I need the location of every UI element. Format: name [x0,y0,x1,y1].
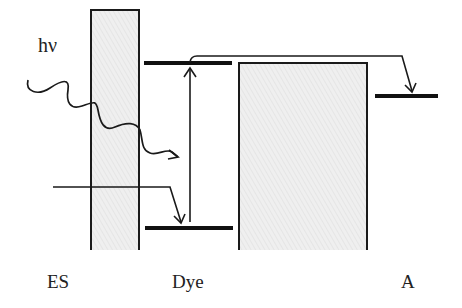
es-label: ES [47,272,69,291]
es-band [91,10,139,250]
acceptor-label: A [401,272,415,291]
energy-level-diagram [0,0,462,308]
middle-band [239,63,367,250]
excitation-arrow-icon [184,68,196,222]
dye-label: Dye [172,272,204,291]
photon-label: hν [38,35,57,55]
